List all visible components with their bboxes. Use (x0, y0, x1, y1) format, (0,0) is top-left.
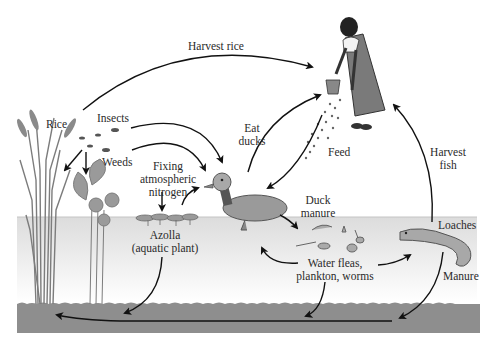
arrow-rice-to-weeds (65, 150, 82, 170)
soil-layer (17, 303, 480, 334)
label-rice: Rice (46, 118, 67, 131)
insects-icon (79, 128, 119, 152)
label-feed: Feed (328, 146, 350, 159)
farmer-icon (326, 17, 385, 130)
label-water-fleas: Water fleas, plankton, worms (285, 257, 385, 283)
label-fixing-nitrogen: Fixing atmospheric nitrogen (140, 160, 196, 199)
label-harvest-rice: Harvest rice (188, 40, 244, 53)
label-weeds: Weeds (102, 156, 132, 169)
label-eat-ducks: Eat ducks (234, 122, 270, 148)
arrow-feed-to-duck (268, 115, 322, 188)
farming-cycle-diagram: Harvest rice Rice Insects Weeds Fixing a… (0, 0, 495, 344)
label-azolla: Azolla (aquatic plant) (125, 229, 205, 255)
label-insects: Insects (97, 112, 129, 125)
label-loaches: Loaches (438, 219, 476, 232)
arrow-harvest-rice (83, 55, 312, 110)
label-duck-manure: Duck manure (295, 194, 341, 220)
label-manure: Manure (443, 270, 479, 283)
arrow-insects-to-duck (131, 123, 222, 162)
label-harvest-fish: Harvest fish (424, 146, 472, 172)
diagram-graphics (0, 0, 495, 344)
